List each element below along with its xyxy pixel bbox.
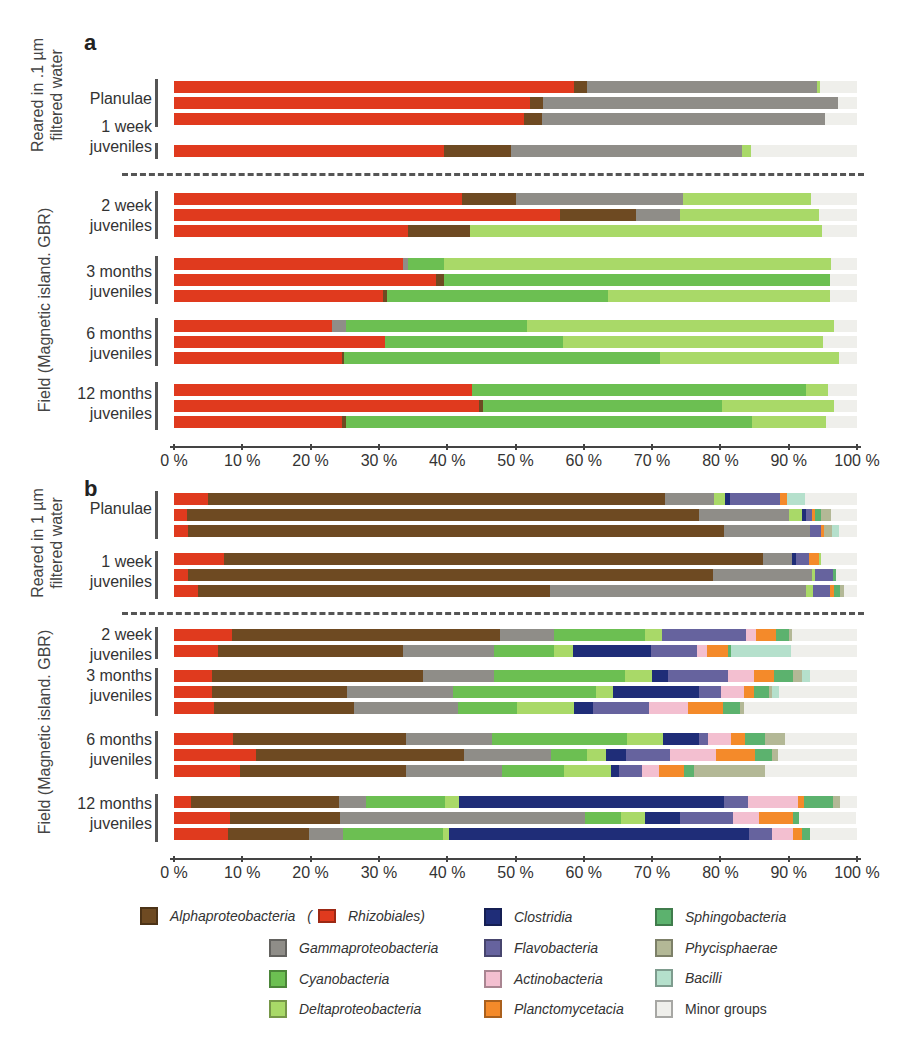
bar-segment-minor-groups [836,569,856,581]
bar-segment-gammaproteobacteria [543,97,838,109]
bar-segment-phycisphaerae [765,733,785,745]
x-tick [173,444,175,450]
stacked-bar [174,645,857,657]
legend-item-flavobacteria: Flavobacteria [484,939,598,957]
stacked-bar [174,193,857,205]
bar-segment-gammaproteobacteria [406,733,492,745]
bar-segment-gammaproteobacteria [464,749,551,761]
bar-segment-deltaproteobacteria [608,290,831,302]
bar-segment-minor-groups [811,193,857,205]
bar-segment-rhizobiales [174,274,436,286]
group-bracket [155,731,158,779]
bar-segment-actinobacteria [728,670,755,682]
group-label: 12 monthsjuveniles [32,794,152,834]
x-tick-label: 20 % [281,864,341,882]
bar-segment-rhizobiales [174,290,383,302]
bar-segment-cyanobacteria [346,320,527,332]
x-tick-label: 0 % [144,452,204,470]
bar-segment-minor-groups [826,416,857,428]
legend-label: Flavobacteria [514,940,598,956]
x-tick [446,444,448,450]
stacked-bar [174,796,857,808]
bar-segment-gammaproteobacteria [763,553,792,565]
bar-segment-planctomycetacia [716,749,755,761]
x-tick-label: 30 % [349,452,409,470]
legend-label: Planctomycetacia [514,1001,624,1017]
bar-segment-minor-groups [828,384,857,396]
x-tick [788,444,790,450]
stacked-bar [174,97,857,109]
bar-segment-rhizobiales [174,509,187,521]
bar-segment-gammaproteobacteria [332,320,346,332]
bar-segment-deltaproteobacteria [517,702,574,714]
bar-segment-sphingobacteria [804,796,833,808]
bar-segment-alphaproteobacteria [574,81,587,93]
bar-segment-alphaproteobacteria [191,796,339,808]
bar-segment-clostridia [573,645,651,657]
stacked-bar [174,585,857,597]
legend-label: Gammaproteobacteria [299,940,438,956]
bar-segment-deltaproteobacteria [742,145,751,157]
bar-segment-clostridia [606,749,626,761]
legend-label: Bacilli [685,970,722,986]
group-label: 2 weekjuveniles [32,196,152,236]
bar-segment-rhizobiales [174,749,256,761]
bar-segment-deltaproteobacteria [645,629,661,641]
bar-segment-phycisphaerae [821,509,831,521]
bar-segment-minor-groups [839,525,857,537]
bar-segment-gammaproteobacteria [516,193,683,205]
bar-segment-gammaproteobacteria [724,525,809,537]
bar-segment-alphaproteobacteria [218,645,403,657]
stacked-bar [174,828,857,840]
bar-segment-gammaproteobacteria [542,113,825,125]
bar-segment-alphaproteobacteria [228,828,309,840]
bar-segment-planctomycetacia [809,553,819,565]
stacked-bar [174,416,857,428]
group-bracket [155,794,158,842]
bar-segment-rhizobiales [174,569,188,581]
bar-segment-alphaproteobacteria [208,493,665,505]
x-tick-label: 70 % [622,864,682,882]
stacked-bar [174,336,857,348]
x-tick-label: 90 % [759,864,819,882]
x-tick-label: 60 % [554,864,614,882]
legend-label: Cyanobacteria [299,971,389,987]
legend-item-actinobacteria: Actinobacteria [484,970,603,988]
stacked-bar [174,113,857,125]
bar-segment-deltaproteobacteria [564,765,611,777]
bar-segment-flavobacteria [699,686,721,698]
group-label: 6 monthsjuveniles [32,324,152,364]
bar-segment-rhizobiales [174,812,230,824]
bar-segment-alphaproteobacteria [188,569,713,581]
bar-segment-clostridia [611,765,619,777]
bar-segment-alphaproteobacteria [214,702,353,714]
bar-segment-minor-groups [744,702,857,714]
legend-item-sphingobacteria: Sphingobacteria [655,908,786,926]
bar-segment-minor-groups [810,670,857,682]
bar-segment-phycisphaerae [793,670,802,682]
bar-segment-phycisphaerae [824,525,832,537]
legend-item-planctomycetacia: Planctomycetacia [484,1000,624,1018]
swatch-icon [655,908,673,926]
bar-segment-sphingobacteria [774,670,794,682]
bar-segment-alphaproteobacteria [444,145,511,157]
bar-segment-rhizobiales [174,352,342,364]
bar-segment-deltaproteobacteria [752,416,826,428]
swatch-icon [269,970,287,988]
bar-segment-rhizobiales [174,97,530,109]
bar-segment-alphaproteobacteria [462,193,516,205]
x-tick-label: 0 % [144,864,204,882]
stacked-bar [174,702,857,714]
stacked-bar [174,553,857,565]
x-tick-label: 100 % [827,452,887,470]
bar-segment-deltaproteobacteria [621,812,644,824]
group-bracket [155,143,158,159]
stacked-bar [174,525,857,537]
bar-segment-alphaproteobacteria [524,113,542,125]
bar-segment-rhizobiales [174,733,233,745]
stacked-bar [174,765,857,777]
bar-segment-phycisphaerae [772,749,779,761]
bar-segment-bacilli [731,645,791,657]
legend-item-phycisphaerae: Phycisphaerae [655,939,778,957]
bar-segment-cyanobacteria [483,400,721,412]
